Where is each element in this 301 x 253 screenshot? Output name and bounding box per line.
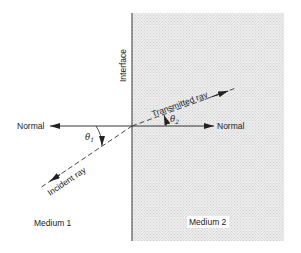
theta1-arc bbox=[96, 126, 102, 146]
medium2-region bbox=[132, 13, 284, 241]
theta1-label: θ1 bbox=[85, 132, 94, 143]
interface-label: Interface bbox=[118, 49, 128, 82]
medium1-label: Medium 1 bbox=[34, 218, 72, 228]
refraction-diagram: Interface Normal Normal Incident ray Tra… bbox=[0, 0, 301, 253]
normal-label-left: Normal bbox=[17, 121, 45, 131]
incident-ray-label: Incident ray bbox=[46, 164, 89, 197]
normal-label-right: Normal bbox=[217, 121, 245, 131]
medium2-label: Medium 2 bbox=[189, 217, 227, 227]
